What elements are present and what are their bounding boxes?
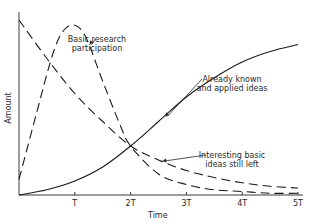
annotation-text: Basic research: [68, 35, 126, 44]
x-tick-label: 2T: [126, 199, 136, 208]
annotation-text: Interesting basic: [199, 151, 266, 160]
annotation-already-known-and-applied-ideas: Already knownand applied ideas: [165, 75, 267, 117]
annotation-basic-research-participation: Basic researchparticipation: [68, 35, 126, 53]
leader-line: [167, 79, 202, 117]
axes: [19, 12, 303, 195]
annotations: Already knownand applied ideasInterestin…: [68, 35, 268, 169]
y-axis-label: Amount: [4, 92, 13, 123]
x-tick-label: 4T: [237, 199, 247, 208]
x-tick-label: 5T: [293, 199, 303, 208]
annotation-text: ideas still left: [205, 160, 258, 169]
annotation-text: and applied ideas: [197, 84, 268, 93]
x-ticks: T2T3T4T5T: [71, 192, 303, 208]
annotation-interesting-basic-ideas-still-left: Interesting basicideas still left: [162, 151, 265, 169]
x-tick-label: 3T: [181, 199, 191, 208]
chart: T2T3T4T5T Already knownand applied ideas…: [0, 0, 312, 223]
annotation-text: Already known: [202, 75, 261, 84]
x-tick-label: T: [71, 199, 77, 208]
arrowhead-icon: [162, 158, 166, 162]
series-line-already-known-and-applied-ideas: [19, 45, 298, 196]
x-axis-label: Time: [147, 211, 168, 220]
annotation-text: participation: [72, 44, 123, 53]
